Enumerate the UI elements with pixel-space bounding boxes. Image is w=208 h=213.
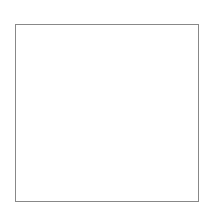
grid-border xyxy=(16,25,199,202)
dot-grid-diagram xyxy=(0,0,208,213)
